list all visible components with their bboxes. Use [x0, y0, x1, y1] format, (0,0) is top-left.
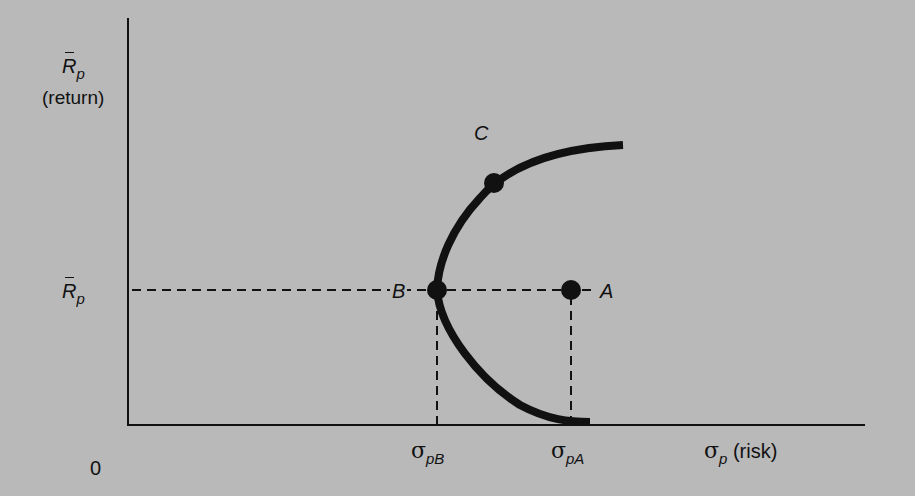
- x-axis-title: σp (risk): [704, 440, 777, 462]
- point-b-label: B: [390, 281, 407, 301]
- sigma-symbol: σ: [704, 438, 719, 463]
- origin-label: 0: [90, 458, 101, 478]
- y-tick-symbol: R: [62, 281, 76, 301]
- sigma-symbol: σ: [551, 438, 566, 463]
- point-c-marker: [484, 173, 504, 193]
- y-tick-return: Rp: [62, 281, 85, 301]
- y-axis-title: Rp: [62, 56, 85, 76]
- x-tick-a-subscript: pA: [566, 450, 584, 467]
- y-axis-word: (return): [42, 88, 104, 107]
- x-axis-word: (risk): [733, 440, 777, 462]
- efficient-frontier-curve: [437, 145, 623, 422]
- y-axis-symbol: R: [62, 56, 76, 76]
- x-tick-sigma-a: σpA: [551, 440, 584, 462]
- point-b-marker: [427, 280, 447, 300]
- point-a-marker: [561, 280, 581, 300]
- x-axis-subscript: p: [719, 450, 727, 467]
- frontier-diagram: [0, 0, 915, 496]
- sigma-symbol: σ: [411, 438, 426, 463]
- y-tick-subscript: p: [76, 290, 84, 307]
- point-c-label: C: [474, 123, 488, 143]
- x-tick-b-subscript: pB: [426, 450, 444, 467]
- y-axis-subscript: p: [76, 65, 84, 82]
- x-tick-sigma-b: σpB: [411, 440, 444, 462]
- point-a-label: A: [598, 281, 615, 301]
